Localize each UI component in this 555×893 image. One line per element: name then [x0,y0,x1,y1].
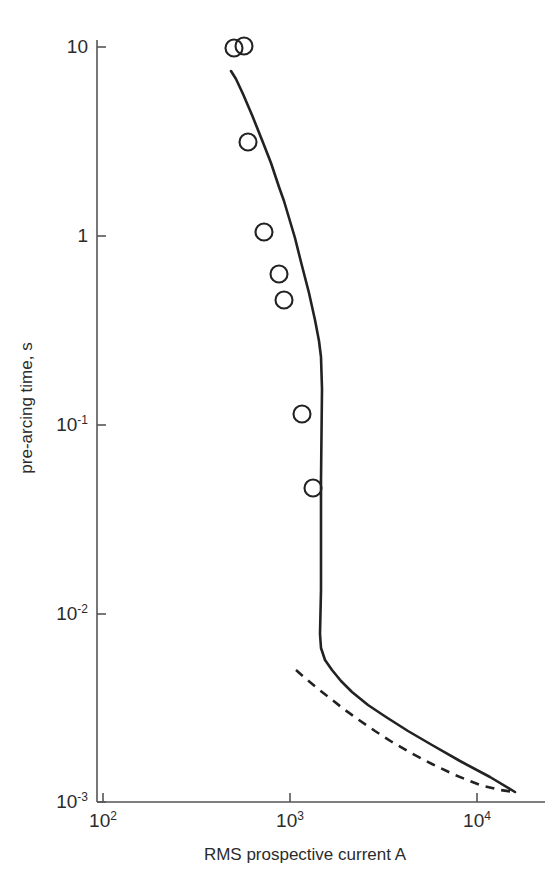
data-point [276,292,293,309]
y-tick-label-1: 1 [35,225,88,247]
series-scatter-points [226,38,322,497]
chart-figure: 10 1 10-1 10-2 10-3 102 103 104 pre-arci… [0,0,555,893]
x-axis-label: RMS prospective current A [150,845,460,865]
x-tick-label-1e3: 103 [257,810,323,832]
data-point [294,406,311,423]
data-point [305,480,322,497]
data-point [256,224,273,241]
x-tick-label-1e2: 102 [70,810,136,832]
y-tick-label-1e-2: 10-2 [22,603,88,625]
x-tick-label-1e4: 104 [444,810,510,832]
y-tick-label-10: 10 [35,36,88,58]
chart-plot-area [0,0,555,893]
y-tick-marks [97,47,106,802]
data-point [236,38,253,55]
y-axis-label: pre-arcing time, s [17,323,37,493]
x-tick-marks [103,793,477,802]
data-point [240,134,257,151]
series-solid-line [231,71,515,792]
data-point [271,266,288,283]
